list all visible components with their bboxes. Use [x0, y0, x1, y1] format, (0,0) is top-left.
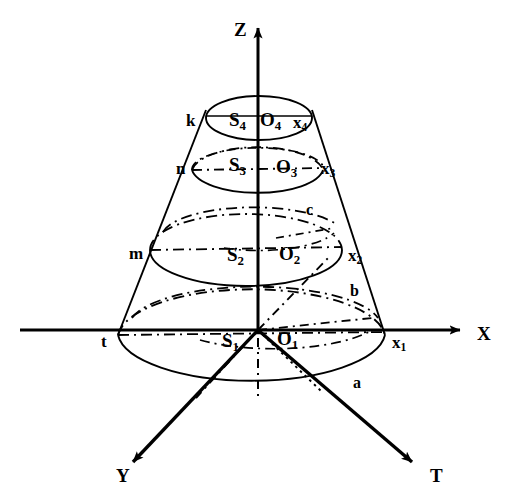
level-2-front-arc: [150, 250, 342, 286]
point-label-x2: x2: [348, 247, 362, 267]
axis-label-z: Z: [234, 20, 247, 39]
left-slant-edge: [118, 110, 206, 335]
axis-label-t: T: [430, 466, 443, 485]
point-label-o1: O1: [277, 329, 298, 352]
s1-letter: S: [222, 330, 233, 351]
s2-letter: S: [227, 244, 238, 265]
o1-letter: O: [277, 328, 292, 349]
axis-label-x: X: [477, 324, 491, 343]
edge-label-a: a: [353, 375, 361, 391]
level-1b-ellipse: [132, 287, 378, 349]
right-slant-edge: [312, 110, 385, 335]
x4-subscript: 4: [302, 121, 308, 134]
point-label-x3: x3: [321, 160, 335, 180]
point-label-k: k: [186, 112, 195, 129]
s4-subscript: 4: [240, 118, 246, 133]
point-label-s1: S1: [222, 331, 239, 354]
x1-subscript: 1: [401, 341, 407, 354]
point-label-n: n: [176, 160, 185, 177]
point-label-o2: O2: [279, 244, 300, 267]
point-label-s3: S3: [229, 155, 246, 178]
x4-letter: x: [293, 113, 302, 132]
o3-subscript: 3: [291, 165, 297, 180]
x2-subscript: 2: [357, 254, 363, 267]
x3-letter: x: [321, 159, 330, 178]
o3-letter: O: [276, 156, 291, 177]
x3-subscript: 3: [330, 167, 336, 180]
frustum-diagram-svg: [0, 0, 514, 504]
point-label-s2: S2: [227, 245, 244, 268]
axis-label-y: Y: [116, 466, 130, 485]
edge-label-c: c: [306, 202, 313, 218]
x2-letter: x: [348, 246, 357, 265]
level-2-back-arc: [150, 214, 342, 250]
s3-subscript: 3: [240, 163, 246, 178]
o4-letter: O: [260, 109, 275, 130]
s1-subscript: 1: [233, 339, 239, 354]
edge-label-b: b: [350, 283, 359, 299]
point-label-x1: x1: [392, 334, 406, 354]
o1-subscript: 1: [292, 337, 298, 352]
figure-canvas: X Z Y T t S1 O1 x1 m S2 O2 x2 n S3 O3 x3…: [0, 0, 514, 504]
o2-subscript: 2: [294, 252, 300, 267]
point-label-t-base: t: [101, 333, 107, 350]
level-1-front-arc: [118, 335, 385, 381]
point-label-x4: x4: [293, 114, 307, 134]
s3-letter: S: [229, 154, 240, 175]
point-label-s4: S4: [229, 110, 246, 133]
s2-subscript: 2: [238, 253, 244, 268]
o2-letter: O: [279, 243, 294, 264]
point-label-o3: O3: [276, 157, 297, 180]
x1-letter: x: [392, 333, 401, 352]
s4-letter: S: [229, 109, 240, 130]
o4-subscript: 4: [275, 118, 281, 133]
base-back-right-chord: [258, 318, 372, 330]
point-label-o4: O4: [260, 110, 281, 133]
level-1-back-arc: [118, 289, 385, 335]
point-label-m: m: [129, 245, 143, 262]
